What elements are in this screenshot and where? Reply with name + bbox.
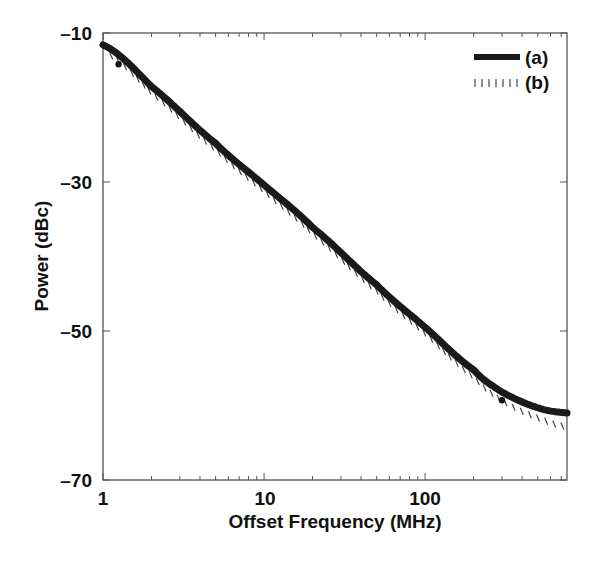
series-a-line (103, 45, 567, 413)
data-markers (115, 61, 505, 403)
chart: –10 –30 –50 –70 1 10 100 Offset Frequenc… (0, 0, 600, 561)
legend: (a) (b) (474, 47, 549, 93)
data-marker (115, 61, 121, 67)
hatch-mark (490, 390, 493, 397)
data-marker (499, 397, 505, 403)
y-axis-title: Power (dBc) (31, 201, 52, 312)
y-tick-label: –10 (60, 23, 92, 44)
x-tick-label: 1 (98, 488, 109, 509)
hatch-mark (537, 415, 540, 422)
y-tick-label: –50 (60, 321, 92, 342)
hatch-mark (553, 421, 556, 428)
legend-label-a: (a) (525, 47, 548, 68)
hatch-mark (561, 423, 564, 430)
hatch-mark (545, 418, 548, 425)
x-tick-label: 10 (254, 488, 275, 509)
y-tick-label: –70 (60, 470, 92, 491)
hatch-mark (483, 384, 486, 391)
x-axis-title: Offset Frequency (MHz) (228, 511, 441, 532)
hatch-mark (512, 404, 515, 411)
hatch-mark (520, 408, 523, 415)
legend-swatch-b (475, 79, 517, 87)
hatch-mark (528, 411, 531, 418)
legend-label-b: (b) (525, 72, 549, 93)
x-tick-label: 100 (409, 488, 441, 509)
y-tick-label: –30 (60, 172, 92, 193)
